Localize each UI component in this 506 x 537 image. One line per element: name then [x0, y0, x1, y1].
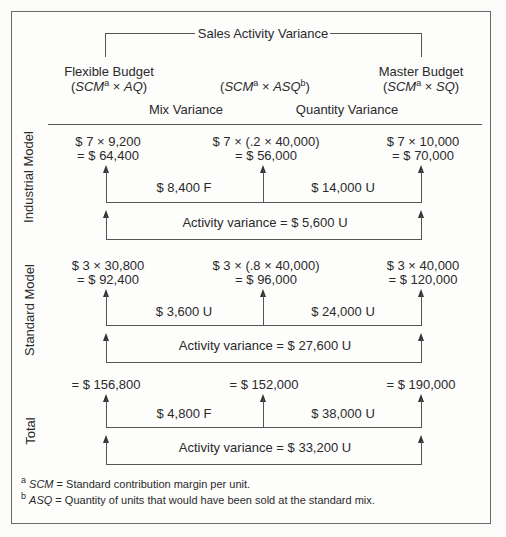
- formula-times: ×: [109, 79, 124, 94]
- standard-flexible-total: = $ 92,400: [77, 272, 139, 287]
- connector-line: [421, 170, 422, 202]
- industrial-master-total: = $ 70,000: [392, 148, 454, 163]
- standard-activity-variance: Activity variance = $ 27,600 U: [179, 338, 351, 353]
- connector-line: [421, 339, 422, 362]
- connector-line: [421, 441, 422, 464]
- quantity-variance-header: Quantity Variance: [296, 102, 398, 117]
- formula-paren: ): [306, 79, 310, 94]
- footnote-mark: a: [21, 475, 26, 485]
- variance-bracket: [106, 202, 422, 203]
- total-activity-variance: Activity variance = $ 33,200 U: [179, 440, 351, 455]
- industrial-activity-variance: Activity variance = $ 5,600 U: [182, 215, 347, 230]
- master-budget-formula: (SCMa × SQ): [383, 79, 459, 94]
- standard-master-calc: $ 3 × 40,000: [387, 258, 460, 273]
- connector-line: [263, 399, 264, 427]
- formula-scm: SCM: [75, 79, 104, 94]
- footnote-a: a SCM = Standard contribution margin per…: [21, 478, 250, 491]
- master-budget-label: Master Budget: [379, 64, 464, 79]
- activity-bracket-left-top: [105, 33, 195, 34]
- formula-paren: ): [143, 79, 147, 94]
- variance-bracket: [106, 427, 422, 428]
- standard-mix-formula: (SCMa × ASQb): [220, 79, 310, 94]
- flexible-budget-formula: (SCMa × AQ): [71, 79, 147, 94]
- footnote-term: ASQ: [29, 494, 52, 506]
- connector-line: [106, 294, 107, 325]
- activity-bracket: [106, 362, 422, 363]
- connector-line: [421, 216, 422, 239]
- footnote-text: = Quantity of units that would have been…: [52, 494, 375, 506]
- connector-line: [421, 294, 422, 325]
- connector-line: [106, 441, 107, 464]
- section-label-industrial: Industrial Model: [21, 131, 36, 223]
- formula-asq: ASQ: [273, 79, 300, 94]
- connector-line: [263, 294, 264, 325]
- industrial-quantity-variance: $ 14,000 U: [311, 180, 375, 195]
- formula-scm: SCM: [387, 79, 416, 94]
- industrial-flexible-total: = $ 64,400: [77, 148, 139, 163]
- formula-sq: SQ: [436, 79, 455, 94]
- connector-line: [106, 339, 107, 362]
- total-flexible-total: = $ 156,800: [71, 377, 140, 392]
- standard-flexible-calc: $ 3 × 30,800: [72, 258, 145, 273]
- industrial-standard-mix-calc: $ 7 × (.2 × 40,000): [213, 134, 320, 149]
- total-standard-mix-total: = $ 152,000: [229, 377, 298, 392]
- connector-line: [263, 170, 264, 202]
- footnote-b: b ASQ = Quantity of units that would hav…: [21, 494, 375, 507]
- mix-variance-header: Mix Variance: [149, 102, 223, 117]
- activity-bracket-right-leg: [421, 33, 422, 57]
- formula-aq: AQ: [124, 79, 143, 94]
- activity-bracket-right-top: [330, 33, 422, 34]
- footnote-term: SCM: [29, 478, 53, 490]
- activity-bracket: [106, 464, 422, 465]
- formula-times: ×: [258, 79, 273, 94]
- total-master-total: = $ 190,000: [386, 377, 455, 392]
- connector-line: [421, 399, 422, 427]
- activity-bracket-left-leg: [105, 33, 106, 57]
- connector-line: [106, 170, 107, 202]
- flexible-budget-label: Flexible Budget: [64, 64, 154, 79]
- standard-standard-mix-total: = $ 96,000: [235, 272, 297, 287]
- formula-times: ×: [421, 79, 436, 94]
- sales-activity-variance-title: Sales Activity Variance: [198, 26, 329, 41]
- total-quantity-variance: $ 38,000 U: [311, 406, 375, 421]
- formula-paren: ): [455, 79, 459, 94]
- section-label-total: Total: [23, 417, 38, 444]
- industrial-master-calc: $ 7 × 10,000: [387, 134, 460, 149]
- standard-mix-variance: $ 3,600 U: [156, 304, 212, 319]
- industrial-standard-mix-total: = $ 56,000: [235, 148, 297, 163]
- standard-standard-mix-calc: $ 3 × (.8 × 40,000): [213, 258, 320, 273]
- footnote-mark: b: [21, 491, 26, 501]
- total-mix-variance: $ 4,800 F: [157, 406, 212, 421]
- connector-line: [106, 216, 107, 239]
- connector-line: [106, 399, 107, 427]
- header-divider: [48, 124, 482, 125]
- standard-quantity-variance: $ 24,000 U: [311, 304, 375, 319]
- industrial-flexible-calc: $ 7 × 9,200: [75, 134, 140, 149]
- footnote-text: = Standard contribution margin per unit.: [54, 478, 251, 490]
- standard-master-total: = $ 120,000: [388, 272, 457, 287]
- activity-bracket: [106, 239, 422, 240]
- variance-bracket: [106, 325, 422, 326]
- section-label-standard: Standard Model: [22, 264, 37, 356]
- formula-scm: SCM: [224, 79, 253, 94]
- industrial-mix-variance: $ 8,400 F: [157, 180, 212, 195]
